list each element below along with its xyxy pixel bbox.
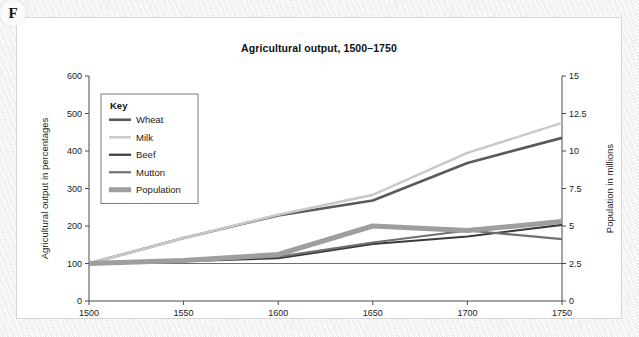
y-tick-label-right: 0: [569, 296, 574, 306]
y-tick-label-left: 600: [67, 71, 82, 81]
x-tick-label: 1700: [457, 308, 477, 318]
line-chart: 010020030040050060002.557.51012.51515001…: [17, 18, 623, 320]
series-line-mutton: [89, 231, 562, 264]
y-tick-label-right: 10: [569, 146, 579, 156]
legend-label-population: Population: [136, 184, 181, 195]
y-tick-label-right: 5: [569, 221, 574, 231]
y-tick-label-right: 2.5: [569, 259, 582, 269]
y-axis-right-title: Population in millions: [604, 144, 615, 233]
x-tick-label: 1650: [363, 308, 383, 318]
y-tick-label-left: 100: [67, 259, 82, 269]
figure-badge: F: [0, 0, 26, 26]
y-tick-label-left: 200: [67, 221, 82, 231]
legend-title: Key: [110, 100, 128, 111]
y-tick-label-left: 300: [67, 184, 82, 194]
x-tick-label: 1750: [552, 308, 572, 318]
y-tick-label-left: 400: [67, 146, 82, 156]
chart-panel: Agricultural output, 1500–1750 010020030…: [16, 17, 622, 319]
y-tick-label-right: 15: [569, 71, 579, 81]
series-line-population: [89, 222, 562, 264]
y-tick-label-left: 0: [77, 296, 82, 306]
y-tick-label-left: 500: [67, 109, 82, 119]
x-tick-label: 1500: [79, 308, 99, 318]
legend-label-milk: Milk: [136, 132, 153, 143]
figure-page: F Agricultural output, 1500–1750 0100200…: [0, 0, 639, 337]
x-tick-label: 1550: [174, 308, 194, 318]
chart-legend: KeyWheatMilkBeefMuttonPopulation: [101, 94, 198, 204]
x-tick-label: 1600: [268, 308, 288, 318]
legend-label-mutton: Mutton: [136, 167, 165, 178]
legend-label-beef: Beef: [136, 149, 156, 160]
legend-label-wheat: Wheat: [136, 114, 164, 125]
y-tick-label-right: 12.5: [569, 109, 587, 119]
y-tick-label-right: 7.5: [569, 184, 582, 194]
y-axis-left-title: Agricultural output in percentages: [39, 117, 50, 259]
